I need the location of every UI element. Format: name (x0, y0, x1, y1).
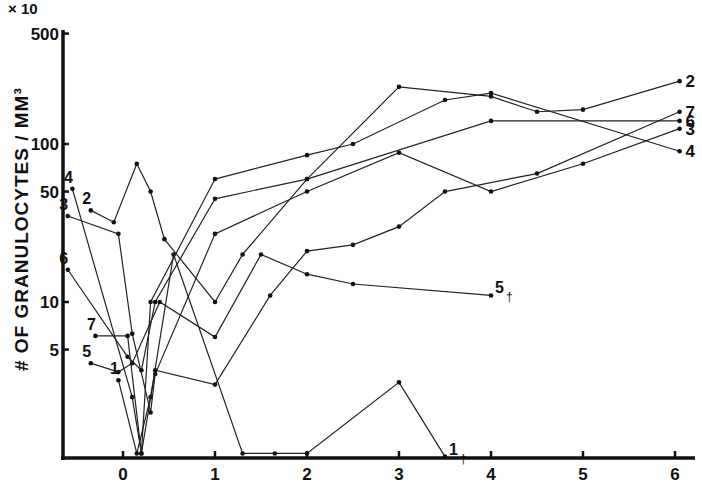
series-lines (66, 79, 682, 459)
data-point (213, 382, 218, 387)
data-point (259, 252, 264, 257)
data-point (93, 334, 98, 339)
data-point (397, 380, 402, 385)
data-point (489, 119, 494, 124)
data-point (139, 451, 144, 456)
data-point (581, 107, 586, 112)
data-point (581, 161, 586, 166)
data-point (351, 243, 356, 248)
series-end-label-4: 4 (686, 142, 696, 161)
series-start-label-6: 6 (59, 250, 68, 267)
series-end-label-7: 7 (686, 103, 695, 122)
data-point (240, 451, 245, 456)
data-point (66, 267, 71, 272)
data-point (116, 232, 121, 237)
series-start-label-1: 1 (110, 360, 119, 377)
data-point (305, 177, 310, 182)
data-point (535, 171, 540, 176)
series-start-label-5: 5 (82, 343, 91, 360)
series-start-label-2: 2 (82, 190, 91, 207)
data-point (148, 300, 153, 305)
data-point (70, 187, 75, 192)
data-point (213, 300, 218, 305)
axes: 510501005000123456 (31, 25, 695, 484)
series-line-6 (68, 121, 680, 370)
series-labels: 11†22334455†6677 (59, 72, 695, 466)
data-point (268, 293, 273, 298)
data-point (162, 237, 167, 242)
x-tick-label: 5 (578, 465, 587, 484)
data-point (153, 368, 158, 373)
data-point (305, 153, 310, 158)
data-point (135, 451, 140, 456)
series-start-label-7: 7 (87, 316, 96, 333)
data-point (305, 189, 310, 194)
granulocyte-line-chart: 510501005000123456 11†22334455†6677 (0, 0, 702, 484)
y-tick-label: 10 (40, 293, 59, 312)
data-point (153, 300, 158, 305)
data-point (305, 272, 310, 277)
data-point (443, 189, 448, 194)
data-point (397, 85, 402, 90)
data-point (139, 368, 144, 373)
data-point (116, 378, 121, 383)
data-point (125, 354, 130, 359)
data-point (135, 161, 140, 166)
data-point (677, 109, 682, 114)
data-point (213, 232, 218, 237)
deceased-dagger-icon: † (460, 452, 467, 466)
data-point (677, 149, 682, 154)
data-point (112, 220, 117, 225)
y-tick-label: 5 (50, 341, 59, 360)
x-tick-label: 4 (486, 465, 496, 484)
data-point (443, 98, 448, 103)
data-point (89, 361, 94, 366)
data-point (535, 109, 540, 114)
data-point (489, 189, 494, 194)
data-point (489, 91, 494, 96)
data-point (213, 177, 218, 182)
data-point (240, 252, 245, 257)
y-tick-label: 50 (40, 183, 59, 202)
data-point (677, 119, 682, 124)
x-tick-label: 6 (670, 465, 679, 484)
x-tick-label: 1 (210, 465, 219, 484)
data-point (273, 451, 278, 456)
data-point (66, 214, 71, 219)
series-end-label-2: 2 (686, 72, 695, 91)
series-line-1 (118, 254, 445, 456)
data-point (305, 249, 310, 254)
data-point (130, 331, 135, 336)
data-point (351, 142, 356, 147)
data-point (125, 334, 130, 339)
data-point (443, 454, 448, 459)
data-point (89, 208, 94, 213)
data-point (305, 451, 310, 456)
series-start-label-4: 4 (64, 169, 73, 186)
y-tick-label: 500 (31, 25, 59, 44)
series-start-label-3: 3 (59, 196, 68, 213)
data-point (213, 196, 218, 201)
data-point (148, 189, 153, 194)
deceased-dagger-icon: † (506, 290, 513, 304)
data-point (489, 293, 494, 298)
series-end-label-1: 1 (449, 441, 458, 458)
x-tick-label: 3 (394, 465, 403, 484)
data-point (677, 79, 682, 84)
data-point (130, 395, 135, 400)
series-line-5 (91, 254, 491, 372)
x-tick-label: 0 (118, 465, 127, 484)
series-line-3 (68, 129, 680, 413)
data-point (397, 150, 402, 155)
data-point (351, 282, 356, 287)
data-point (158, 300, 163, 305)
x-tick-label: 2 (302, 465, 311, 484)
data-point (213, 335, 218, 340)
data-point (677, 126, 682, 131)
series-end-label-5: 5 (495, 279, 504, 296)
data-point (397, 224, 402, 229)
y-tick-label: 100 (31, 135, 59, 154)
